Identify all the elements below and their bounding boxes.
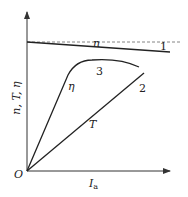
eta-label: η [68,80,75,93]
curve-number-2: 2 [139,82,146,95]
T-label: T [89,118,98,131]
origin-label: O [14,168,23,181]
x-axis-label: Ia [88,177,98,191]
motor-characteristics-chart: n 1 3 η 2 T O Ia n, T, η [0,0,188,197]
eta-curve [27,60,139,171]
torque-curve [27,73,144,171]
y-axis-label: n, T, η [10,81,23,115]
curve-number-1: 1 [160,40,167,53]
n-label: n [93,37,100,50]
curve-number-3: 3 [96,65,103,78]
